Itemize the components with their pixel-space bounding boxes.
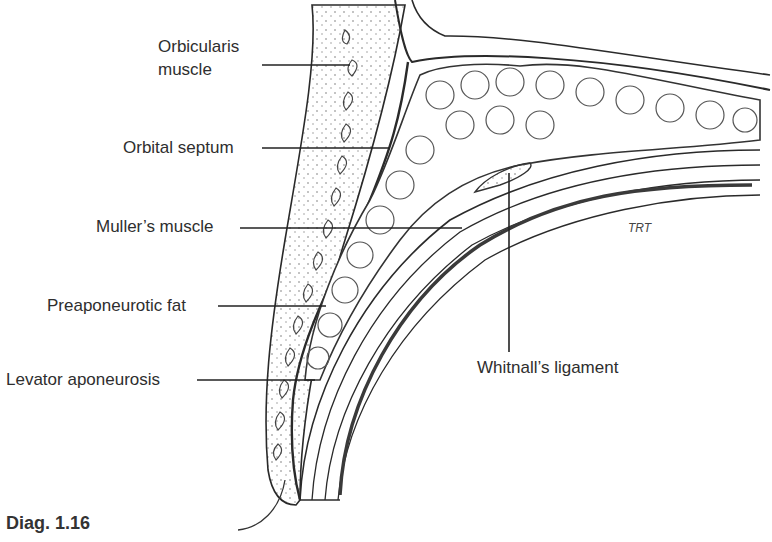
- label-orbicularis-line2: muscle: [158, 60, 212, 80]
- label-whitnalls-ligament: Whitnall’s ligament: [477, 358, 618, 378]
- label-orbital-septum: Orbital septum: [123, 138, 234, 158]
- eyelid-cross-section-drawing: TRT: [0, 0, 772, 542]
- label-preaponeurotic-fat: Preaponeurotic fat: [47, 296, 186, 316]
- figure-caption: Diag. 1.16: [6, 513, 90, 534]
- label-orbicularis-line1: Orbicularis: [158, 37, 239, 57]
- label-mullers-muscle: Muller’s muscle: [96, 217, 213, 237]
- artist-initials: TRT: [628, 221, 653, 235]
- label-levator-aponeurosis: Levator aponeurosis: [6, 370, 160, 390]
